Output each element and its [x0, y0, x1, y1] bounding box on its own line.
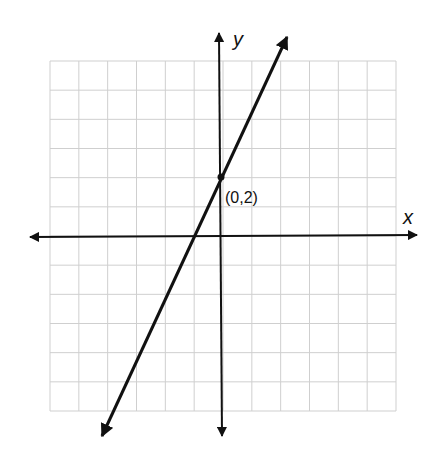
point-label: (0,2) — [225, 189, 258, 206]
y-intercept-point — [218, 174, 225, 181]
y-axis-label: y — [231, 28, 244, 50]
x-axis-label: x — [402, 206, 414, 228]
coordinate-graph: (0,2) x y — [0, 0, 439, 461]
